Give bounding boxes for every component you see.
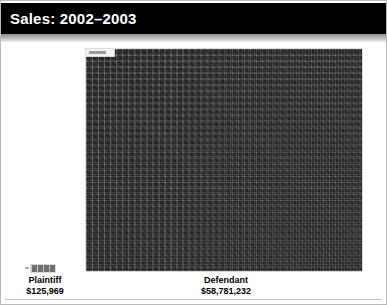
defendant-pictogram-bar [86, 49, 362, 271]
bottom-divider [5, 299, 382, 300]
grid-scale-notch [86, 49, 115, 57]
defendant-label-group: Defendant $58,781,232 [156, 275, 296, 297]
defendant-category-label: Defendant [156, 275, 296, 286]
title-band-shadow [1, 34, 387, 42]
plaintiff-value-label: $125,969 [9, 286, 81, 297]
defendant-value-label: $58,781,232 [156, 286, 296, 297]
plaintiff-bar-tick [25, 267, 29, 269]
title-band: Sales: 2002–2003 [1, 3, 387, 34]
plaintiff-pictogram-bar [31, 265, 55, 272]
chart-slide: Sales: 2002–2003 Plaintiff $125,969 Defe… [0, 0, 387, 305]
plaintiff-category-label: Plaintiff [9, 275, 81, 286]
page-title: Sales: 2002–2003 [1, 10, 137, 27]
plaintiff-label-group: Plaintiff $125,969 [9, 275, 81, 297]
grid-scale-notch-mark [89, 51, 106, 54]
chart-plot-area: Plaintiff $125,969 Defendant $58,781,232 [1, 42, 386, 304]
grid-texture-overlay [86, 49, 362, 271]
